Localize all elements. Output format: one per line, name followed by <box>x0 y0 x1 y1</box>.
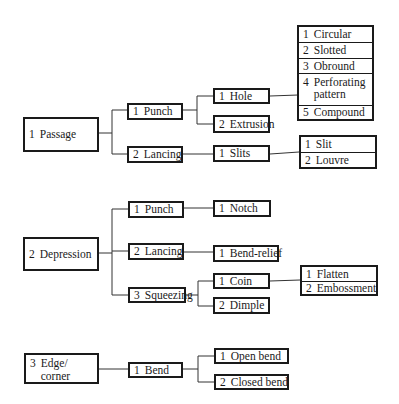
node-passage-punch: 1 Punch <box>127 103 183 120</box>
hole-type-circular: 1 Circular <box>299 27 372 43</box>
node-number: 2 <box>219 118 225 131</box>
hole-type-obround: 3 Obround <box>299 59 372 74</box>
node-number: 1 <box>219 147 225 160</box>
node-extrusion: 2 Extrusion <box>213 115 270 133</box>
node-label: Lancing <box>145 245 183 258</box>
node-edge-corner: 3 Edge/ corner <box>24 353 99 384</box>
node-number: 3 <box>30 357 36 370</box>
node-label: Slit <box>316 138 332 151</box>
node-label: Punch <box>145 203 174 216</box>
slit-types-list: 1 Slit 2 Louvre <box>299 135 377 169</box>
hole-types-list: 1 Circular 2 Slotted 3 Obround 4 Perfora… <box>297 25 374 121</box>
node-label: Hole <box>230 90 252 103</box>
node-number: 1 <box>134 203 140 216</box>
node-label: Embossment <box>317 282 376 295</box>
node-number: 2 <box>306 282 312 295</box>
node-label: Edge/ corner <box>41 357 77 383</box>
node-number: 2 <box>29 248 35 261</box>
coin-types-list: 1 Flatten 2 Embossment <box>300 265 378 296</box>
node-label: Coin <box>230 275 252 288</box>
node-label: Obround <box>314 60 355 73</box>
hole-type-slotted: 2 Slotted <box>299 43 372 59</box>
hole-type-perforating-pattern: 4 Perforating pattern <box>299 74 372 106</box>
node-passage-lancing: 2 Lancing <box>127 146 183 163</box>
node-depression-lancing: 2 Lancing <box>128 243 184 260</box>
node-label: Punch <box>144 105 173 118</box>
coin-type-embossment: 2 Embossment <box>302 282 376 294</box>
node-number: 4 <box>303 76 309 88</box>
node-slits: 1 Slits <box>213 145 270 162</box>
node-label: Dimple <box>230 299 265 312</box>
node-label: Passage <box>40 128 76 141</box>
node-number: 1 <box>220 350 226 363</box>
node-notch: 1 Notch <box>213 200 271 217</box>
hole-type-compound: 5 Compound <box>299 106 372 119</box>
node-label: Louvre <box>316 154 349 167</box>
node-label: Depression <box>40 248 92 261</box>
node-number: 2 <box>134 245 140 258</box>
node-label: Squeezing <box>145 289 193 302</box>
node-number: 2 <box>133 148 139 161</box>
node-number: 1 <box>219 275 225 288</box>
node-number: 2 <box>220 376 226 389</box>
node-number: 1 <box>134 364 140 377</box>
node-number: 5 <box>303 106 309 119</box>
node-open-bend: 1 Open bend <box>214 348 289 364</box>
node-label: Open bend <box>231 350 281 363</box>
node-label: Bend <box>145 364 169 377</box>
node-label: Slotted <box>314 44 347 57</box>
node-label: Closed bend <box>231 376 288 389</box>
node-coin: 1 Coin <box>213 273 270 289</box>
node-number: 2 <box>303 44 309 57</box>
node-bend-relief: 1 Bend-relief <box>213 245 279 262</box>
node-number: 2 <box>219 299 225 312</box>
node-label: Circular <box>314 28 352 41</box>
node-number: 1 <box>219 247 225 260</box>
node-dimple: 2 Dimple <box>213 297 270 314</box>
node-number: 1 <box>306 268 312 281</box>
node-label: Lancing <box>144 148 182 161</box>
node-number: 1 <box>133 105 139 118</box>
node-number: 1 <box>303 28 309 41</box>
node-squeezing: 3 Squeezing <box>128 287 186 303</box>
node-label: Perforating pattern <box>314 76 369 100</box>
node-label: Compound <box>314 106 365 119</box>
node-number: 1 <box>305 138 311 151</box>
node-label: Notch <box>230 202 258 215</box>
coin-type-flatten: 1 Flatten <box>302 267 376 282</box>
node-number: 1 <box>29 128 35 141</box>
node-label: Flatten <box>317 268 349 281</box>
node-depression-punch: 1 Punch <box>128 201 184 218</box>
node-number: 3 <box>303 60 309 73</box>
node-label: Slits <box>230 147 250 160</box>
node-number: 1 <box>219 90 225 103</box>
slit-type-louvre: 2 Louvre <box>301 153 375 167</box>
node-closed-bend: 2 Closed bend <box>214 374 289 390</box>
node-label: Extrusion <box>230 118 275 131</box>
node-passage: 1 Passage <box>23 117 99 152</box>
node-hole: 1 Hole <box>213 88 270 104</box>
node-number: 2 <box>305 154 311 167</box>
slit-type-slit: 1 Slit <box>301 137 375 153</box>
node-bend: 1 Bend <box>128 362 183 378</box>
node-number: 3 <box>134 289 140 302</box>
node-number: 1 <box>219 202 225 215</box>
node-label: Bend-relief <box>230 247 282 260</box>
node-depression: 2 Depression <box>23 237 99 271</box>
